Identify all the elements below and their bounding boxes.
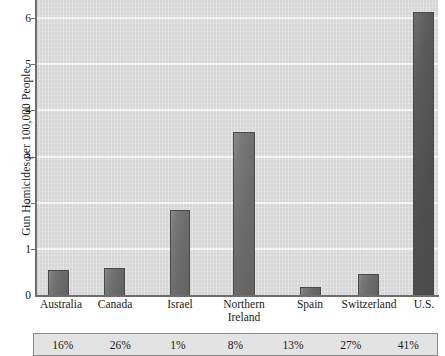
x-axis-category-labels: Australia Canada Israel Northern Ireland… — [36, 298, 438, 328]
x-label-switzerland: Switzerland — [332, 298, 406, 311]
gridline-4 — [36, 109, 438, 111]
bar-australia — [48, 270, 69, 296]
y-tick-label-2: 2 — [5, 197, 31, 209]
y-axis-tick-labels: 6 5 4 3 2 1 0 — [0, 0, 31, 300]
x-label-canada: Canada — [89, 298, 141, 311]
pct-cell-us: 41% — [379, 334, 437, 355]
gridline-5 — [36, 63, 438, 65]
pct-cell-spain: 13% — [264, 334, 322, 355]
bar-switzerland — [358, 274, 379, 296]
x-axis-line — [35, 295, 439, 297]
pct-cell-canada: 26% — [92, 334, 150, 355]
bar-northern-ireland — [233, 132, 255, 296]
x-label-israel: Israel — [156, 298, 204, 311]
y-tick-label-3: 3 — [5, 151, 31, 163]
bar-canada — [104, 268, 125, 296]
gun-homicides-bar-chart: Gun Homicides per 100,000 People 6 5 4 3… — [0, 0, 445, 356]
pct-cell-switzerland: 27% — [322, 334, 380, 355]
y-tick-label-1: 1 — [5, 243, 31, 255]
percentage-table: 16% 26% 1% 8% 13% 27% 41% — [33, 333, 438, 356]
y-tick-label-4: 4 — [5, 104, 31, 116]
x-label-us: U.S. — [404, 298, 444, 311]
y-tick-label-0: 0 — [5, 289, 31, 301]
y-axis-line — [35, 0, 37, 297]
pct-cell-australia: 16% — [34, 334, 92, 355]
plot-area — [36, 0, 438, 296]
x-label-spain: Spain — [284, 298, 336, 311]
bar-us — [413, 12, 434, 296]
bar-israel — [170, 210, 190, 296]
y-tick-label-5: 5 — [5, 58, 31, 70]
x-label-northern-ireland: Northern Ireland — [211, 298, 277, 324]
pct-cell-northern-ireland: 8% — [207, 334, 265, 355]
pct-cell-israel: 1% — [149, 334, 207, 355]
gridline-6 — [36, 17, 438, 19]
x-label-australia: Australia — [32, 298, 90, 311]
y-tick-label-6: 6 — [5, 12, 31, 24]
